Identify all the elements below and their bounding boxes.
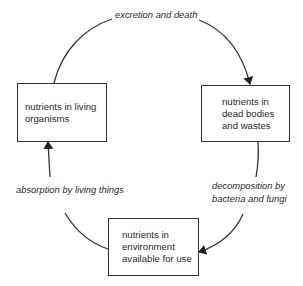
node-living-label: nutrients in living organisms — [25, 101, 96, 125]
node-environment: nutrients in environment available for u… — [108, 218, 199, 276]
edge-label-excretion: excretion and death — [115, 9, 197, 22]
edge-label-decomposition: decomposition by bacteria and fungi — [212, 180, 287, 205]
node-environment-label: nutrients in environment available for u… — [122, 229, 192, 265]
arrow-decomposition-top-segment — [256, 142, 258, 177]
edge-label-absorption: absorption by living things — [16, 184, 124, 197]
arrow-absorption-top-segment — [48, 142, 50, 177]
arrow-absorption-bottom-segment — [65, 213, 108, 249]
node-dead-bodies: nutrients in dead bodies and wastes — [201, 85, 290, 142]
node-dead-label: nutrients in dead bodies and wastes — [222, 96, 274, 132]
arrow-excretion-left-segment — [54, 19, 112, 83]
arrow-excretion-right-segment — [199, 20, 250, 84]
arrow-decomposition-bottom-segment — [199, 214, 243, 252]
node-living-organisms: nutrients in living organisms — [17, 83, 107, 142]
